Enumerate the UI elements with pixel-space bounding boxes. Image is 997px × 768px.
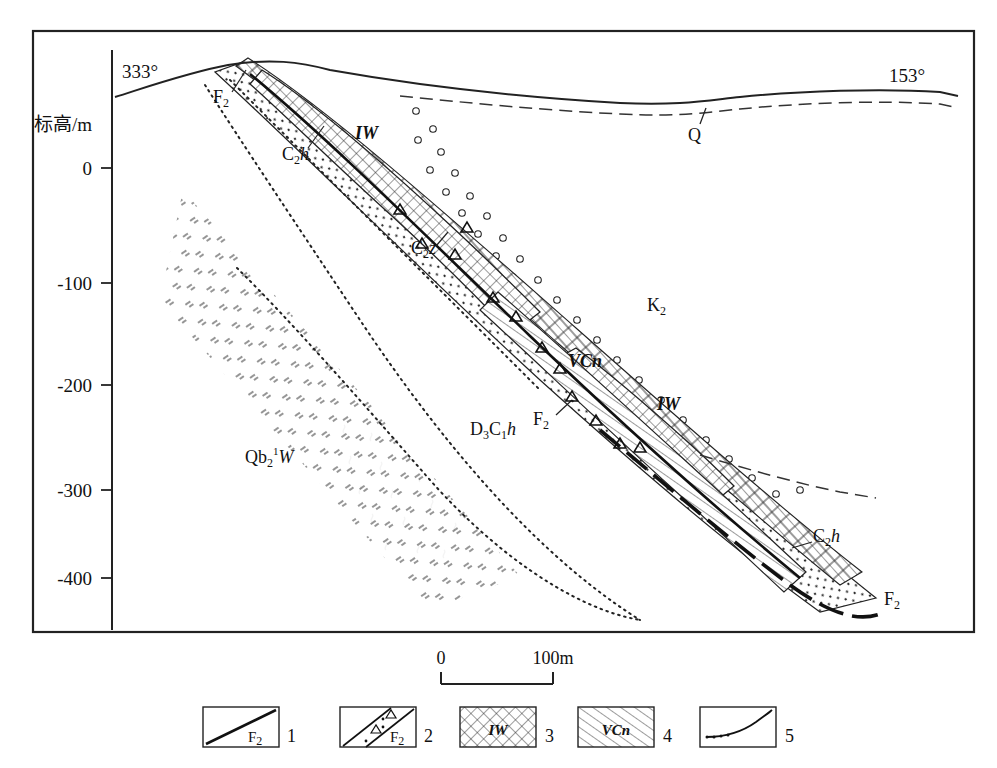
legend-number-5: 5 xyxy=(785,726,794,746)
unit-label-f2-mid: F2 xyxy=(533,409,549,432)
svg-text:F2: F2 xyxy=(533,409,549,432)
legend-item-2: F2 2 xyxy=(340,707,433,748)
unit-label-c2h-lower: C2h xyxy=(813,526,840,549)
unit-label-q: Q xyxy=(688,125,701,145)
scale-end: 100m xyxy=(532,648,573,668)
svg-text:IW: IW xyxy=(354,123,380,143)
svg-text:F2: F2 xyxy=(213,87,229,110)
unit-label-f2-bottom: F2 xyxy=(884,589,900,612)
y-tick--400: -400 xyxy=(57,568,92,589)
legend-item-3: IW 3 xyxy=(460,707,554,747)
unit-label-d3c1h: D3C1h xyxy=(470,419,516,442)
y-tick--300: -300 xyxy=(57,480,92,501)
legend-number-3: 3 xyxy=(545,726,554,746)
y-axis-title: 标高/m xyxy=(34,114,92,135)
y-tick--100: -100 xyxy=(57,273,92,294)
unit-label-iw-upper: IW xyxy=(354,123,380,143)
legend-label-4: VCn xyxy=(602,722,630,738)
y-tick--200: -200 xyxy=(57,375,92,396)
unit-label-f2-top: F2 xyxy=(213,87,229,110)
unit-label-vcn: VCn xyxy=(568,351,602,371)
legend-swatch-5 xyxy=(700,707,776,747)
legend-swatch-2 xyxy=(340,707,416,747)
legend-item-5: 5 xyxy=(700,707,794,747)
legend-number-1: 1 xyxy=(287,726,296,746)
svg-text:C2h: C2h xyxy=(813,526,840,549)
y-axis-ticks xyxy=(101,168,112,578)
legend-number-2: 2 xyxy=(424,726,433,746)
bearing-left: 333° xyxy=(122,61,158,82)
svg-text:VCn: VCn xyxy=(568,351,602,371)
legend-item-1: F2 1 xyxy=(203,707,296,748)
unit-label-iw-lower: IW xyxy=(656,394,682,414)
bearing-right: 153° xyxy=(889,65,925,86)
geological-cross-section-figure: 标高/m 0 -100 -200 -300 -400 333° 153° F2 … xyxy=(0,0,997,768)
scale-bar: 0 100m xyxy=(437,648,574,684)
legend-item-4: VCn 4 xyxy=(578,707,672,747)
svg-text:D3C1h: D3C1h xyxy=(470,419,516,442)
svg-text:IW: IW xyxy=(656,394,682,414)
svg-text:F2: F2 xyxy=(884,589,900,612)
legend-label-3: IW xyxy=(487,722,509,738)
scale-start: 0 xyxy=(437,648,446,668)
y-tick-0: 0 xyxy=(83,158,93,179)
svg-text:Q: Q xyxy=(688,125,701,145)
legend-number-4: 4 xyxy=(663,726,672,746)
